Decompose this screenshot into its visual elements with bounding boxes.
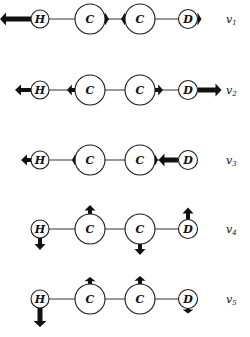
arrow-right-icon bbox=[105, 13, 109, 26]
atom-label: H bbox=[34, 13, 46, 26]
arrow-up-icon bbox=[85, 205, 96, 214]
atom-label: D bbox=[182, 84, 193, 97]
mode-label: v2 bbox=[226, 84, 237, 98]
mode-row-1: HCCDv1 bbox=[0, 4, 237, 34]
atom-label: H bbox=[34, 293, 46, 306]
atom-label: C bbox=[136, 13, 145, 26]
mode-label: v4 bbox=[226, 223, 237, 237]
arrow-down-icon bbox=[35, 238, 46, 250]
atom-label: C bbox=[86, 154, 95, 167]
atom-label: C bbox=[86, 223, 95, 236]
atom-label: H bbox=[34, 154, 46, 167]
atom-label: C bbox=[136, 84, 145, 97]
arrow-left-icon bbox=[21, 155, 31, 166]
arrow-down-icon bbox=[135, 244, 146, 255]
atom-label: D bbox=[182, 223, 193, 236]
atom-label: C bbox=[86, 13, 95, 26]
atom-label: D bbox=[182, 293, 193, 306]
atom-label: D bbox=[182, 13, 193, 26]
arrow-left-icon bbox=[121, 13, 125, 26]
mode-row-5: HCCDv5 bbox=[31, 276, 237, 327]
arrow-up-icon bbox=[183, 208, 194, 220]
arrow-up-icon bbox=[135, 276, 146, 284]
vibrational-modes-diagram: HCCDv1HCCDv2HCCDv3HCCDv4HCCDv5 bbox=[0, 0, 250, 337]
arrow-left-icon bbox=[159, 154, 179, 167]
atom-label: D bbox=[182, 154, 193, 167]
arrow-left-icon bbox=[0, 13, 31, 26]
arrow-up-icon bbox=[85, 277, 96, 284]
atom-label: H bbox=[34, 223, 46, 236]
mode-label: v5 bbox=[226, 293, 237, 307]
atom-label: C bbox=[136, 223, 145, 236]
atom-label: C bbox=[136, 293, 145, 306]
mode-row-3: HCCDv3 bbox=[21, 145, 237, 175]
arrow-right-icon bbox=[198, 13, 202, 26]
arrow-down-icon bbox=[183, 309, 194, 314]
arrow-left-icon bbox=[15, 85, 31, 96]
atom-label: C bbox=[136, 154, 145, 167]
atom-label: H bbox=[34, 84, 46, 97]
atom-label: C bbox=[86, 293, 95, 306]
mode-row-4: HCCDv4 bbox=[31, 205, 237, 255]
mode-label: v1 bbox=[226, 13, 237, 27]
arrow-right-icon bbox=[155, 85, 163, 96]
arrow-left-icon bbox=[67, 85, 75, 96]
atom-label: C bbox=[86, 84, 95, 97]
arrow-down-icon bbox=[34, 308, 47, 327]
arrow-right-icon bbox=[198, 84, 222, 97]
mode-row-2: HCCDv2 bbox=[15, 75, 237, 105]
mode-label: v3 bbox=[226, 154, 237, 168]
